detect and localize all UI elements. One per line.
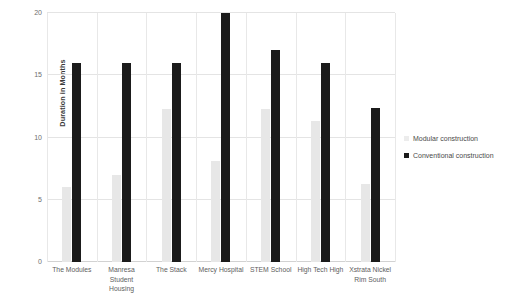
bar-conventional (172, 63, 181, 262)
bar-group (296, 13, 346, 262)
y-tick-label: 15 (34, 71, 42, 78)
bar-group (47, 13, 97, 262)
bar-conventional (122, 63, 131, 262)
legend-swatch-icon (404, 153, 409, 158)
y-tick-label: 5 (38, 195, 42, 202)
bar-modular (261, 109, 270, 262)
x-axis-labels: The ModulesManresa Student HousingThe St… (47, 265, 395, 307)
x-tick-label: High Tech High (296, 265, 346, 275)
x-tick-label: The Stack (146, 265, 196, 275)
bar-conventional (321, 63, 330, 262)
bar-modular (62, 187, 71, 262)
legend-item[interactable]: Modular construction (404, 131, 516, 145)
x-tick-label: STEM School (246, 265, 296, 275)
bar-chart: Duration in Months 05101520 The ModulesM… (0, 0, 521, 307)
bar-conventional (271, 50, 280, 262)
x-tick-label: Xstrata Nickel Rim South (345, 265, 395, 284)
legend-label: Modular construction (413, 135, 478, 142)
bar-group (196, 13, 246, 262)
bar-modular (162, 109, 171, 262)
bar-conventional (371, 108, 380, 262)
bar-group (345, 13, 395, 262)
bar-modular (211, 161, 220, 262)
plot-area: 05101520 (47, 13, 395, 262)
y-tick-label: 0 (38, 258, 42, 265)
bar-modular (112, 175, 121, 262)
y-tick-label: 20 (34, 9, 42, 16)
category-separator (395, 13, 396, 262)
legend-label: Conventional construction (413, 152, 494, 159)
bar-group (97, 13, 147, 262)
bar-group (246, 13, 296, 262)
x-tick-label: Manresa Student Housing (97, 265, 147, 294)
y-tick-label: 10 (34, 133, 42, 140)
x-tick-label: Mercy Hospital (196, 265, 246, 275)
x-tick-label: The Modules (47, 265, 97, 275)
chart-legend: Modular constructionConventional constru… (404, 131, 516, 165)
bar-modular (311, 121, 320, 262)
legend-item[interactable]: Conventional construction (404, 148, 516, 162)
bar-group (146, 13, 196, 262)
bar-conventional (221, 13, 230, 262)
bar-conventional (72, 63, 81, 262)
bar-modular (361, 184, 370, 262)
legend-swatch-icon (404, 136, 409, 141)
